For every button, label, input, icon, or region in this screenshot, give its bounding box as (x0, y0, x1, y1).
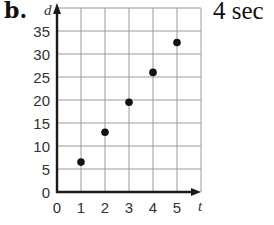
y-tick-label: 35 (33, 23, 50, 40)
data-point (173, 39, 181, 47)
x-tick-label: 4 (149, 199, 157, 216)
x-tick-label: 1 (77, 199, 85, 216)
x-tick-label: 5 (173, 199, 181, 216)
y-axis-label: d (44, 2, 52, 18)
data-point (149, 69, 157, 77)
x-tick-label: 0 (53, 199, 61, 216)
scatter-chart: 05101520253035 012345 d t (0, 0, 274, 225)
y-tick-label: 15 (33, 115, 50, 132)
x-tick-labels: 012345 (53, 199, 181, 216)
y-tick-label: 20 (33, 92, 50, 109)
x-tick-label: 2 (101, 199, 109, 216)
y-tick-label: 10 (33, 138, 50, 155)
x-tick-label: 3 (125, 199, 133, 216)
data-point (101, 128, 109, 136)
x-axis-label: t (198, 198, 203, 214)
y-tick-label: 25 (33, 69, 50, 86)
x-axis-arrow-icon (191, 188, 201, 196)
y-tick-label: 0 (42, 184, 50, 201)
data-point (77, 158, 85, 166)
y-tick-labels: 05101520253035 (33, 23, 50, 201)
y-tick-label: 5 (42, 161, 50, 178)
data-point (125, 99, 133, 107)
y-tick-label: 30 (33, 46, 50, 63)
